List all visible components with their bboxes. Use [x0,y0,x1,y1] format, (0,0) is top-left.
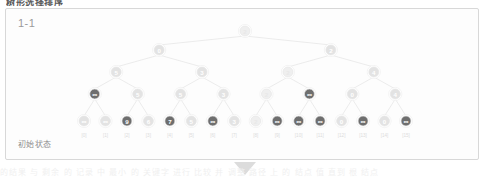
tree-node-halo [185,114,198,127]
tree-node-circle [240,26,250,36]
tree-svg: 2025324∞5532∞04∞∞9675∞32∞∞∞0∞0∞ [0][1][2… [6,9,480,161]
leaf-index-label: [10] [295,133,303,138]
tree-node: ∞ [271,114,284,127]
tree-node-circle [176,89,186,99]
tree-node-halo [399,114,412,127]
tree-node-halo [314,114,327,127]
tree-edge [224,99,235,116]
tree-node-value: ∞ [404,118,409,125]
tree-node-circle [390,89,400,99]
tree-node-halo [335,114,348,127]
tree-node: 5 [131,87,144,100]
leaf-index-label: [11] [316,133,323,138]
tree-node: 0 [346,87,359,100]
tree-edge [95,99,106,116]
tree-edge [95,77,116,89]
tree-edge [202,77,223,89]
tree-node-value: 5 [114,69,118,76]
tree-node-value: 5 [136,91,140,98]
tree-node-value: 2 [329,47,333,54]
tree-node-circle [251,116,261,126]
tree-node-value: 0 [383,118,387,125]
tree-node-halo [281,65,294,78]
tree-node-halo [228,114,241,127]
tree-node: 7 [163,114,176,127]
tree-node-halo [88,87,101,100]
tree-node-value: 2 [265,91,269,98]
tree-node-circle [283,67,293,77]
tree-node: 2 [260,87,273,100]
tree-edge [288,77,309,89]
tree-edge [245,36,331,45]
tree-node-halo [356,114,369,127]
tree-node-value: ∞ [307,91,312,98]
tree-node-circle [79,116,89,126]
tree-node: 0 [378,114,391,127]
tree-edges [84,36,406,116]
tree-node: ∞ [314,114,327,127]
tree-node-circle [197,67,207,77]
tree-node-value: 0 [340,118,344,125]
leaf-index-label: [12] [338,133,346,138]
tree-node-value: 4 [372,69,376,76]
tree-node: 4 [367,65,380,78]
tree-node: 5 [174,87,187,100]
tree-node: 3 [217,87,230,100]
tree-node-halo [110,65,123,78]
tree-node-circle [369,67,379,77]
tree-node-halo [120,114,133,127]
tree-node-value: ∞ [82,118,87,125]
tree-node-value: 9 [125,118,129,125]
tree-node: ∞ [356,114,369,127]
tree-node: 2 [324,43,337,56]
tree-node-halo [346,87,359,100]
tree-node-value: 7 [168,118,172,125]
tree-node-circle [208,116,218,126]
tree-node-circle [315,116,325,126]
tree-edge [138,99,149,116]
tree-node-circle [143,116,153,126]
leaf-index-label: [7] [232,133,237,138]
tree-node-halo [153,43,166,56]
tree-node-circle [294,116,304,126]
leaf-index-label: [9] [275,133,280,138]
leaf-index-label: [3] [146,133,151,138]
tree-node-halo [99,114,112,127]
tree-node-halo [217,87,230,100]
tree-node-halo [367,65,380,78]
leaf-index-label: [8] [253,133,258,138]
figure-caption: 初始状态 [18,138,51,149]
tree-node: 0 [335,114,348,127]
bottom-band-text: 的结果 与 剩余 的 记录 中 最小 的 关键字 进行 比较 并 调整 路径 上… [0,166,489,180]
tree-edge [395,99,406,116]
tree-node: 4 [389,87,402,100]
tree-node: 2 [238,24,251,37]
tree-node-circle [219,89,229,99]
page-heading: 树形选择排序 [6,0,126,6]
tree-node-halo [271,114,284,127]
figure-label: 1-1 [18,17,35,29]
tree-node: ∞ [399,114,412,127]
tree-node: 5 [110,65,123,78]
tree-edge [181,99,192,116]
tree-node-circle [272,116,282,126]
tree-node-circle [358,116,368,126]
leaf-index-label: [5] [189,133,194,138]
tree-edge [127,99,138,116]
tree-node-circle [380,116,390,126]
leaf-index-label: [1] [103,133,108,138]
tree-node-value: 2 [243,28,247,35]
tree-node-value: 5 [179,91,183,98]
tree-node-value: ∞ [296,118,301,125]
tree-edge [116,55,159,67]
tree-node: ∞ [292,114,305,127]
tree-node-value: 4 [394,91,398,98]
tree-node-halo [324,43,337,56]
tree-node-circle [100,116,110,126]
tree-edge [309,99,320,116]
leaf-index-label: [4] [167,133,172,138]
leaf-index-labels: [0][1][2][3][4][5][6][7][8][9][10][11][1… [81,133,409,138]
tree-node-circle [401,116,411,126]
tree-node: 3 [228,114,241,127]
tree-edge [266,77,287,89]
